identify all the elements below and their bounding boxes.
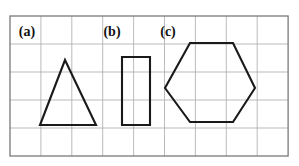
shape-hexagon bbox=[165, 43, 255, 122]
worksheet-canvas: (a)(b)(c) bbox=[0, 0, 299, 166]
labels-layer: (a)(b)(c) bbox=[19, 24, 176, 40]
shape-rectangle bbox=[122, 57, 150, 125]
shapes-layer bbox=[40, 43, 255, 125]
geometry-figure: (a)(b)(c) bbox=[0, 0, 299, 166]
label-triangle: (a) bbox=[19, 24, 36, 40]
label-rectangle: (b) bbox=[103, 24, 120, 40]
label-hexagon: (c) bbox=[160, 24, 176, 40]
shape-triangle bbox=[40, 60, 96, 125]
